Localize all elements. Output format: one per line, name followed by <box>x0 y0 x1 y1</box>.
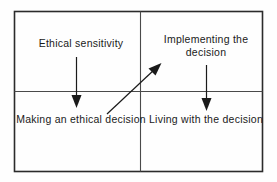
diagram-canvas: Ethical sensitivity Implementing the dec… <box>0 0 277 182</box>
quadrant-label-living-with-the-decision: Living with the decision <box>148 113 264 126</box>
arrow-down-left-icon <box>72 57 82 108</box>
arrow-down-right-icon <box>202 65 212 111</box>
quadrant-label-making-an-ethical-decision: Making an ethical decision <box>16 113 146 126</box>
diagram-graphics <box>0 0 277 182</box>
arrow-diagonal-up-right-icon <box>107 63 162 114</box>
quadrant-label-implementing-the-decision: Implementing the decision <box>148 33 264 59</box>
quadrant-label-ethical-sensitivity: Ethical sensitivity <box>16 37 146 50</box>
